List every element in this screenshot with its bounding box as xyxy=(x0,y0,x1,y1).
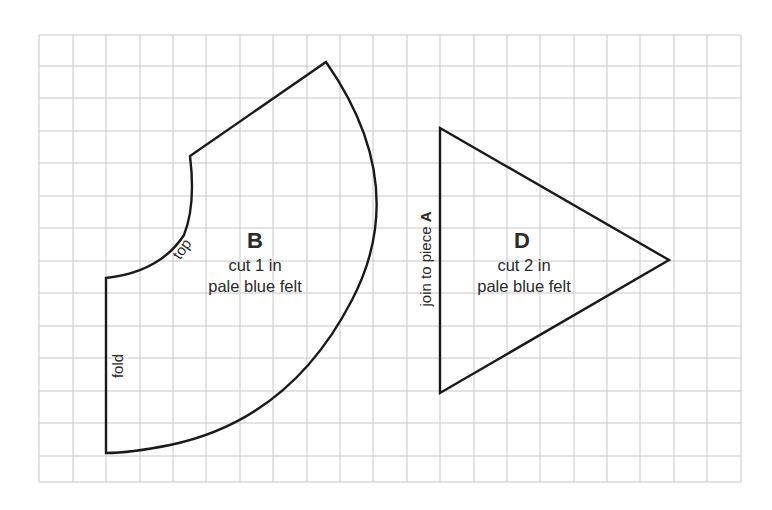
piece-d-material: pale blue felt xyxy=(477,277,571,295)
piece-d-join-label: join to piece A xyxy=(417,211,434,307)
join-label-piece: A xyxy=(417,211,434,222)
piece-b-letter: B xyxy=(247,228,263,253)
pattern-canvas: B cut 1 in pale blue felt top fold D cut… xyxy=(0,0,772,510)
piece-b-material: pale blue felt xyxy=(208,277,302,295)
piece-b-fold-label: fold xyxy=(109,354,126,378)
piece-b-top-label: top xyxy=(169,235,195,262)
join-label-text: join to piece xyxy=(417,222,434,307)
pattern-piece-b: B cut 1 in pale blue felt top fold xyxy=(106,62,377,453)
piece-b-cut-count: cut 1 in xyxy=(228,256,281,274)
piece-d-cut-count: cut 2 in xyxy=(497,256,550,274)
grid-background xyxy=(39,35,741,482)
piece-d-letter: D xyxy=(514,228,530,253)
